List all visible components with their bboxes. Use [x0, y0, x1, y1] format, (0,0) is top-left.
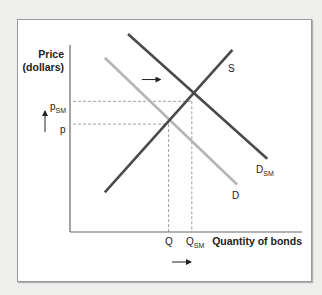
price-label: p [60, 124, 66, 135]
supply-label: S [228, 63, 235, 74]
supply-demand-chart: Price (dollars) Quantity of bonds S D DS… [0, 0, 322, 295]
demand-sm-label: DSM [256, 164, 274, 177]
demand-label: D [232, 190, 239, 201]
curve-d-sm [128, 34, 267, 159]
quantity-sm-label: QSM [186, 236, 204, 249]
x-axis-title: Quantity of bonds [212, 235, 302, 247]
y-axis-title-line1: Price [38, 48, 64, 60]
demand-sm-label-sub: SM [263, 170, 274, 177]
demand-sm-label-main: D [256, 164, 263, 175]
quantity-label: Q [165, 236, 173, 247]
y-axis-title-line2: (dollars) [23, 61, 64, 73]
price-sm-label: pSM [50, 101, 66, 114]
price-sm-label-sub: SM [56, 107, 67, 114]
quantity-sm-label-sub: SM [194, 242, 205, 249]
curve-d [105, 58, 237, 185]
